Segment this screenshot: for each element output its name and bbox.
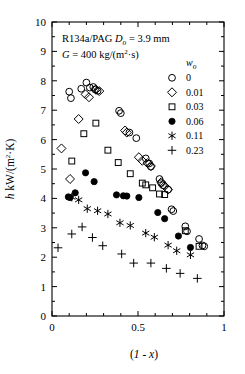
open-square-marker [115, 160, 121, 166]
y-tick-labels: 012345678910 [35, 16, 47, 322]
data-point-open-square [81, 131, 87, 137]
legend-entry-label: 0 [186, 72, 191, 83]
filled-circle-marker [187, 244, 193, 250]
data-point-plus [54, 244, 63, 253]
data-point-filled-circle [136, 194, 142, 200]
legend: 00.010.030.060.110.23 [168, 72, 204, 156]
open-diamond-marker [57, 144, 66, 153]
data-point-open-diamond [57, 144, 66, 153]
open-square-marker [169, 104, 175, 110]
data-point-filled-circle [169, 118, 175, 124]
data-point-open-diamond [84, 93, 93, 102]
y-tick-label: 2 [41, 251, 47, 263]
data-point-filled-circle [124, 193, 130, 199]
open-square-marker [81, 131, 87, 137]
open-square-marker [93, 120, 99, 126]
legend-entry-label: 0.06 [186, 116, 204, 127]
legend-entry-label: 0.03 [186, 101, 204, 112]
filled-circle-marker [155, 209, 161, 215]
legend-entry[interactable]: 0.23 [168, 145, 204, 156]
y-tick-label: 8 [41, 75, 47, 87]
series-0-01 [57, 85, 173, 194]
annotation-line-1: R134a/PAG Do = 3.9 mm [62, 33, 170, 47]
x-axis-label: (1 - x) [130, 348, 158, 361]
annotation-line-2: G = 400 kg/(m2·s) [62, 48, 139, 61]
y-axis-label: h kW/(m2·K) [4, 138, 17, 199]
data-point-asterisk [151, 233, 158, 241]
filled-circle-marker [169, 118, 175, 124]
y-tick-label: 3 [41, 222, 47, 234]
open-circle-marker [196, 236, 203, 243]
data-point-asterisk [104, 210, 111, 218]
data-point-open-circle [66, 88, 73, 95]
data-point-plus [129, 259, 138, 268]
data-point-open-square [127, 171, 133, 177]
open-square-marker [69, 158, 75, 164]
data-point-open-circle [170, 208, 177, 215]
x-tick-label: 1 [221, 321, 227, 333]
open-circle-marker [83, 79, 90, 86]
data-point-open-square [115, 160, 121, 166]
open-square-marker [127, 171, 133, 177]
data-point-plus [68, 230, 77, 239]
data-point-open-circle [196, 236, 203, 243]
legend-entry[interactable]: 0 [169, 72, 191, 83]
y-axis-label-units-tail: ·K) [4, 138, 17, 154]
x-label-close: ) [154, 348, 158, 361]
data-point-asterisk [164, 241, 171, 249]
data-point-open-circle [68, 95, 75, 102]
data-point-asterisk [116, 219, 123, 227]
open-square-marker [143, 182, 149, 188]
annotation-massflux-value: = 400 kg/(m [70, 49, 125, 61]
data-point-open-square [105, 147, 111, 153]
legend-entry[interactable]: 0.11 [168, 130, 203, 141]
data-point-plus [78, 223, 87, 232]
data-point-open-square [93, 120, 99, 126]
legend-entry-label: 0.23 [186, 145, 204, 156]
annotation-fluid: R134a/PAG [62, 33, 113, 44]
legend-entry-label: 0.11 [186, 130, 203, 141]
filled-circle-marker [162, 216, 168, 222]
legend-entry[interactable]: 0.06 [169, 116, 204, 127]
data-point-plus [147, 259, 156, 268]
data-point-open-circle [133, 135, 140, 142]
data-point-open-circle [83, 79, 90, 86]
data-point-filled-circle [91, 179, 97, 185]
data-point-open-square [150, 185, 156, 191]
y-axis-label-units: kW/(m [4, 158, 17, 191]
filled-circle-marker [175, 233, 181, 239]
open-circle-marker [170, 208, 177, 215]
annotation-diameter-value: = 3.9 mm [126, 33, 169, 44]
open-diamond-marker [168, 88, 177, 97]
filled-circle-marker [113, 192, 119, 198]
data-point-open-square [139, 180, 145, 186]
data-point-plus [162, 264, 171, 273]
open-diamond-marker [66, 175, 75, 184]
open-square-marker [139, 180, 145, 186]
x-tick-label: 0 [49, 321, 55, 333]
data-point-plus [117, 250, 126, 259]
open-circle-marker [169, 74, 176, 81]
data-point-asterisk [75, 196, 82, 204]
legend-title: wo [186, 57, 197, 71]
data-point-open-circle [169, 74, 176, 81]
y-tick-label: 10 [35, 16, 47, 28]
y-axis-label-h: h [4, 193, 16, 199]
open-diamond-marker [84, 93, 93, 102]
data-point-asterisk [173, 247, 180, 255]
legend-entry-label: 0.01 [186, 87, 204, 98]
plot-frame [52, 22, 224, 316]
scatter-chart: 012345678910 00.51 h kW/(m2·K) (1 - x) R… [0, 0, 245, 374]
legend-entry[interactable]: 0.03 [169, 101, 203, 112]
data-point-filled-circle [82, 170, 88, 176]
data-point-open-circle [168, 206, 175, 213]
x-tick-labels: 00.51 [49, 321, 227, 333]
data-point-open-square [169, 104, 175, 110]
data-point-open-square [69, 158, 75, 164]
legend-entry[interactable]: 0.01 [168, 87, 204, 98]
data-point-open-diamond [168, 88, 177, 97]
open-circle-marker [168, 206, 175, 213]
open-square-marker [150, 185, 156, 191]
legend-title-subscript: o [193, 62, 197, 71]
open-circle-marker [66, 88, 73, 95]
